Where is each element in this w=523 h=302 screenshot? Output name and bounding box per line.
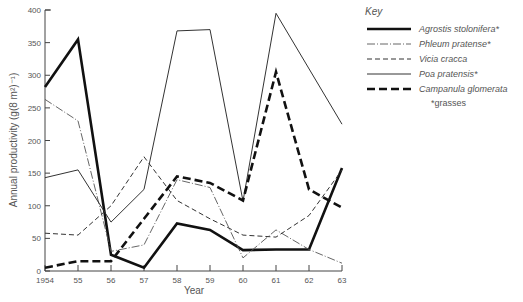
x-tick-label: 57 <box>140 276 149 285</box>
y-tick-label: 250 <box>28 104 42 113</box>
legend-swatch-icon <box>365 69 413 79</box>
y-tick-label: 200 <box>28 137 42 146</box>
legend-swatch-icon <box>365 84 413 94</box>
x-tick-label: 63 <box>338 276 347 285</box>
legend-item: Agrostis stolonifera* <box>365 21 523 36</box>
legend-item: Poa pratensis* <box>365 66 523 81</box>
x-tick-label: 59 <box>206 276 215 285</box>
legend-label: Poa pratensis* <box>419 69 478 79</box>
legend-label: Agrostis stolonifera* <box>419 24 499 34</box>
x-tick-label: 61 <box>272 276 281 285</box>
y-tick-label: 100 <box>28 202 42 211</box>
y-tick-label: 150 <box>28 169 42 178</box>
legend-title: Key <box>365 6 523 17</box>
legend-note: *grasses <box>365 98 523 108</box>
legend-swatch-icon <box>365 24 413 34</box>
y-tick-label: 400 <box>28 6 42 15</box>
y-axis-title: Annual productivity (g(8 m²)⁻¹) <box>8 73 19 207</box>
x-tick-label: 62 <box>305 276 314 285</box>
x-tick-label: 56 <box>107 276 116 285</box>
legend-label: Campanula glomerata <box>419 84 508 94</box>
legend-swatch-icon <box>365 39 413 49</box>
y-axis: 050100150200250300350400 <box>28 6 51 276</box>
x-tick-label: 60 <box>239 276 248 285</box>
series-line <box>45 99 342 263</box>
y-tick-label: 350 <box>28 39 42 48</box>
x-tick-label: 58 <box>173 276 182 285</box>
legend-item: Phleum pratense* <box>365 36 523 51</box>
legend: Key Agrostis stolonifera*Phleum pratense… <box>365 6 523 108</box>
series-lines <box>45 13 342 267</box>
x-tick-label: 1954 <box>36 276 54 285</box>
y-tick-label: 50 <box>32 234 41 243</box>
series-line <box>45 39 342 267</box>
legend-item: Vicia cracca <box>365 51 523 66</box>
legend-item: Campanula glomerata <box>365 81 523 96</box>
legend-label: Vicia cracca <box>419 54 467 64</box>
y-tick-label: 0 <box>37 267 42 276</box>
series-line <box>45 157 342 237</box>
x-axis: 1954555657585960616263 <box>36 265 347 285</box>
series-line <box>45 72 342 268</box>
legend-label: Phleum pratense* <box>419 39 491 49</box>
y-tick-label: 300 <box>28 71 42 80</box>
line-chart: 050100150200250300350400 195455565758596… <box>0 0 360 302</box>
x-axis-title: Year <box>184 285 205 296</box>
legend-swatch-icon <box>365 54 413 64</box>
x-tick-label: 55 <box>74 276 83 285</box>
